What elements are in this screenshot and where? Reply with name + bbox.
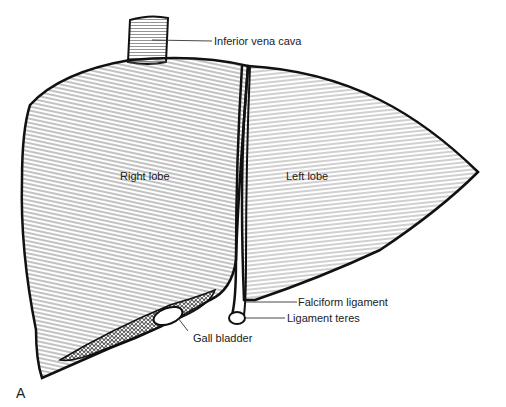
- ivc-label: Inferior vena cava: [214, 36, 301, 47]
- right-lobe-label: Right lobe: [120, 171, 170, 182]
- falciform-label: Falciform ligament: [298, 297, 388, 308]
- ligament-teres: [229, 312, 245, 324]
- left-lobe: [242, 66, 478, 300]
- panel-letter: A: [16, 386, 25, 400]
- left-lobe-label: Left lobe: [286, 171, 328, 182]
- liver-diagram: Inferior vena cava Right lobe Left lobe …: [0, 0, 506, 407]
- ligament-teres-label: Ligament teres: [287, 313, 360, 324]
- right-lobe: [22, 58, 248, 378]
- gall-bladder-label: Gall bladder: [193, 333, 252, 344]
- liver-illustration: [0, 0, 506, 407]
